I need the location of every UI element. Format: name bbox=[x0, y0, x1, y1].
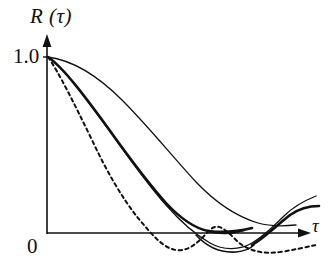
y-axis-label: R (τ) bbox=[30, 6, 72, 27]
x-axis-label: τ bbox=[312, 216, 319, 235]
plot-canvas bbox=[0, 0, 335, 266]
y-axis bbox=[43, 34, 52, 234]
y-tick-label-1: 1.0 bbox=[13, 46, 39, 67]
origin-label: 0 bbox=[27, 236, 38, 257]
slow-decay-curve bbox=[48, 57, 296, 226]
bold-curve-below-axis bbox=[196, 235, 254, 252]
gaussian-bold-curve bbox=[48, 57, 244, 233]
correlation-function-figure: R (τ) 1.0 0 τ bbox=[0, 0, 335, 266]
gaussian-bold-curve-tail bbox=[208, 228, 252, 232]
exponential-thin-curve bbox=[48, 57, 316, 249]
